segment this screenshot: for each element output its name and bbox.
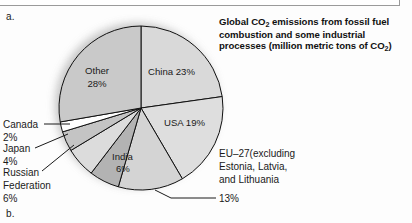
slice-label-india-line1: India <box>112 151 133 162</box>
callout-russia-line1: Russian <box>3 167 39 178</box>
callout-russia-line2: Federation <box>3 180 51 191</box>
callout-canada-line2: 2% <box>3 132 18 143</box>
figure-panel: a. b. Global CO2 emissions from fossil f… <box>0 0 412 223</box>
slice-label-india-line2: 6% <box>116 163 130 174</box>
callout-russia-line3: 6% <box>3 193 18 204</box>
pie-chart: China 23% USA 19% Other 28% India 6% Can… <box>0 0 412 223</box>
slice-label-usa: USA 19% <box>164 117 206 128</box>
leader-line-eu <box>155 190 216 198</box>
pie-wedges <box>59 26 223 190</box>
callout-eu-line3: and Lithuania <box>219 174 279 185</box>
slice-label-china: China 23% <box>148 66 195 77</box>
leader-line-japan <box>35 134 68 148</box>
callout-eu-line2: Estonia, Latvia, <box>219 161 287 172</box>
slice-label-other-line1: Other <box>85 65 110 76</box>
callout-eu-line4: 13% <box>219 193 239 204</box>
leader-line-russia <box>42 145 74 171</box>
slice-label-other-line2: 28% <box>87 78 107 89</box>
callout-japan-line1: Japan <box>3 143 30 154</box>
callout-canada-line1: Canada <box>3 119 38 130</box>
callout-eu-line1: EU–27(excluding <box>219 148 295 159</box>
callout-japan-line2: 4% <box>3 156 18 167</box>
